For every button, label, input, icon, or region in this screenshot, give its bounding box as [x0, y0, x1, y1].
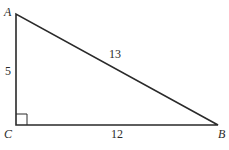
side-label-cb: 12: [111, 128, 123, 140]
vertex-label-b: B: [218, 128, 225, 140]
right-angle-marker: [16, 114, 27, 125]
vertex-label-c: C: [4, 128, 12, 140]
side-label-ac: 5: [5, 65, 11, 77]
triangle-abc: [16, 14, 218, 125]
side-label-ab: 13: [109, 48, 121, 60]
vertex-label-a: A: [4, 6, 11, 18]
